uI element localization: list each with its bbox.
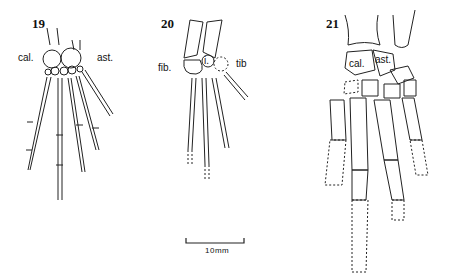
label-ast-19: ast. — [97, 52, 113, 63]
label-cal-19: cal. — [18, 52, 34, 63]
skeletal-drawings — [0, 0, 470, 280]
foot-skeleton-20 — [184, 20, 248, 181]
panel-number-19: 19 — [32, 16, 45, 32]
scale-bar-label: 10mm — [205, 246, 229, 255]
label-ast-21: ast. — [375, 54, 391, 65]
label-cal-21: cal. — [349, 58, 365, 69]
scale-bar — [186, 238, 244, 243]
label-tib-20: tib — [236, 58, 247, 69]
foot-skeleton-21 — [325, 10, 428, 272]
label-fib-20: fib. — [158, 62, 171, 73]
label-i-20: i. — [204, 55, 209, 66]
figure: 19 cal. ast. 20 fib. i. tib 21 cal. ast.… — [0, 0, 470, 280]
panel-number-20: 20 — [161, 16, 174, 32]
panel-number-21: 21 — [326, 16, 339, 32]
